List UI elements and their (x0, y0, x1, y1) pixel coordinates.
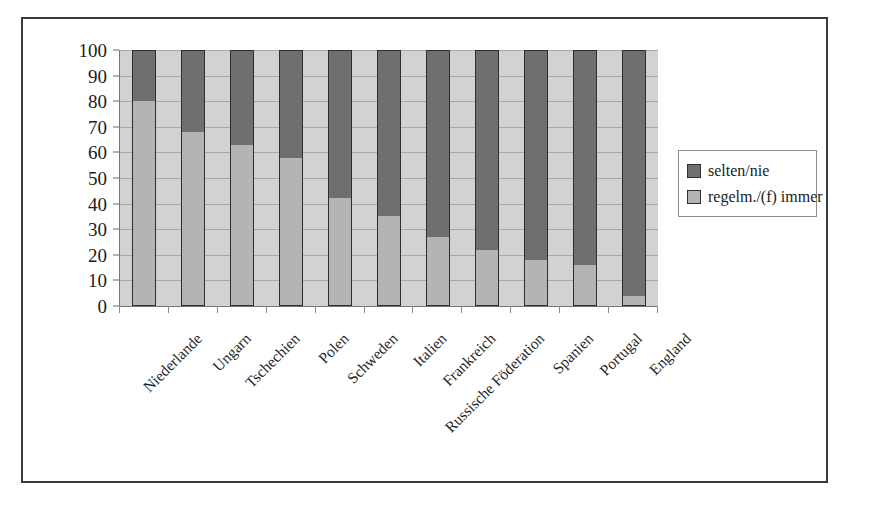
bar-segment-selten-nie[interactable] (573, 50, 597, 265)
legend-item-regelm-immer: regelm./(f) immer (687, 188, 810, 206)
x-axis-tick-mark (119, 306, 120, 313)
bar-segment-selten-nie[interactable] (524, 50, 548, 260)
bar-segment-selten-nie[interactable] (622, 50, 646, 296)
y-axis-tick-label: 90 (88, 66, 107, 85)
legend-item-selten-nie: selten/nie (687, 162, 810, 180)
x-axis-tick-mark (168, 306, 169, 313)
bar-column[interactable] (524, 50, 548, 306)
bar-column[interactable] (132, 50, 156, 306)
bar-column[interactable] (475, 50, 499, 306)
x-axis-tick-mark (510, 306, 511, 313)
x-axis-tick-mark (412, 306, 413, 313)
chart-legend: selten/nie regelm./(f) immer (678, 150, 817, 217)
legend-item-label: regelm./(f) immer (708, 188, 823, 206)
x-axis-tick-mark (217, 306, 218, 313)
bar-segment-selten-nie[interactable] (426, 50, 450, 237)
bar-column[interactable] (230, 50, 254, 306)
figure-frame: 0102030405060708090100 NiederlandeUngarn… (21, 17, 828, 483)
x-axis-tick-mark (461, 306, 462, 313)
legend-item-label: selten/nie (708, 162, 769, 180)
bar-column[interactable] (181, 50, 205, 306)
bar-segment-selten-nie[interactable] (377, 50, 401, 216)
y-axis-tick-label: 10 (88, 271, 107, 290)
bar-segment-selten-nie[interactable] (181, 50, 205, 132)
bar-series-container (120, 50, 658, 306)
y-axis-tick-label: 100 (79, 41, 108, 60)
bar-segment-selten-nie[interactable] (230, 50, 254, 145)
bar-segment-regelm-immer[interactable] (181, 132, 205, 306)
bar-column[interactable] (573, 50, 597, 306)
bar-column[interactable] (328, 50, 352, 306)
y-axis: 0102030405060708090100 (69, 50, 113, 306)
x-axis-tick-mark (266, 306, 267, 313)
x-axis-tick-mark (608, 306, 609, 313)
chart-plot-wrapper: 0102030405060708090100 NiederlandeUngarn… (69, 29, 669, 329)
x-axis-tick-mark (315, 306, 316, 313)
bar-segment-regelm-immer[interactable] (622, 296, 646, 306)
plot-area (119, 50, 658, 307)
y-axis-tick-label: 50 (88, 169, 107, 188)
bar-segment-regelm-immer[interactable] (475, 250, 499, 306)
bar-segment-selten-nie[interactable] (279, 50, 303, 158)
x-axis-ticks (119, 306, 657, 313)
bar-segment-regelm-immer[interactable] (328, 198, 352, 306)
bar-segment-regelm-immer[interactable] (377, 216, 401, 306)
bar-segment-regelm-immer[interactable] (426, 237, 450, 306)
y-axis-tick-label: 20 (88, 245, 107, 264)
x-axis-category-labels: NiederlandeUngarnTschechienPolenSchweden… (115, 321, 755, 441)
y-axis-tick-label: 80 (88, 92, 107, 111)
legend-swatch-icon (687, 190, 701, 204)
y-axis-tick-label: 70 (88, 117, 107, 136)
bar-segment-selten-nie[interactable] (475, 50, 499, 250)
bar-segment-regelm-immer[interactable] (279, 158, 303, 306)
x-axis-tick-mark (559, 306, 560, 313)
bar-segment-regelm-immer[interactable] (524, 260, 548, 306)
y-axis-tick-label: 60 (88, 143, 107, 162)
bar-column[interactable] (279, 50, 303, 306)
bar-column[interactable] (622, 50, 646, 306)
bar-segment-selten-nie[interactable] (132, 50, 156, 101)
bar-segment-regelm-immer[interactable] (132, 101, 156, 306)
bar-segment-selten-nie[interactable] (328, 50, 352, 198)
x-axis-tick-mark (657, 306, 658, 313)
y-axis-tick-label: 40 (88, 194, 107, 213)
y-axis-tick-label: 0 (98, 297, 108, 316)
bar-segment-regelm-immer[interactable] (230, 145, 254, 306)
bar-segment-regelm-immer[interactable] (573, 265, 597, 306)
bar-column[interactable] (377, 50, 401, 306)
y-axis-tick-label: 30 (88, 220, 107, 239)
x-axis-tick-mark (364, 306, 365, 313)
legend-swatch-icon (687, 164, 701, 178)
bar-column[interactable] (426, 50, 450, 306)
